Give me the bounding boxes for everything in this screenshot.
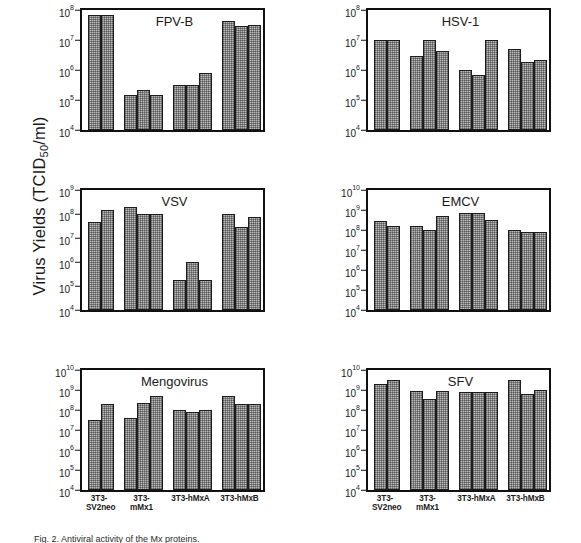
- bar: [222, 396, 235, 490]
- x-axis-label-3t3-hmxa: 3T3-hMxA: [457, 494, 496, 510]
- y-axis-ticks: 1041051061071081091010: [330, 188, 366, 312]
- bar-gap: [400, 190, 410, 310]
- panel-hsv-1: 104105106107108 HSV-1: [330, 8, 552, 153]
- bar: [374, 384, 387, 490]
- bar: [521, 62, 534, 130]
- bar: [436, 391, 449, 490]
- bar: [235, 26, 248, 130]
- bar-group: [374, 10, 400, 130]
- y-tick-label: 109: [330, 205, 366, 216]
- y-tick-label: 104: [44, 305, 80, 316]
- plot-area: EMCV: [366, 188, 551, 312]
- bar-gap: [449, 10, 459, 130]
- bar-gap: [400, 10, 410, 130]
- bar: [459, 392, 472, 490]
- bar-gap: [212, 190, 222, 310]
- y-tick-label: 106: [44, 257, 80, 268]
- y-tick-label: 108: [44, 209, 80, 220]
- bar: [88, 420, 101, 490]
- bar: [137, 90, 150, 130]
- y-tick-label: 104: [330, 125, 366, 136]
- bar: [423, 40, 436, 130]
- y-tick-label: 107: [44, 425, 80, 436]
- bar-gap: [163, 370, 173, 490]
- y-tick-label: 105: [44, 281, 80, 292]
- bar-group: [173, 10, 212, 130]
- x-label-spacer: [112, 494, 122, 510]
- bar: [235, 404, 248, 490]
- bar: [410, 226, 423, 310]
- y-tick-label: 1010: [44, 365, 80, 376]
- bar: [508, 230, 521, 310]
- bar-series: [368, 190, 549, 310]
- bar: [248, 217, 261, 310]
- y-tick-label: 106: [44, 65, 80, 76]
- y-tick-label: 104: [330, 305, 366, 316]
- x-axis-labels: 3T3-SV2neo3T3-mMx13T3-hMxA3T3-hMxB: [366, 494, 551, 510]
- bar: [248, 404, 261, 490]
- bar-series: [82, 10, 263, 130]
- bar: [534, 390, 547, 490]
- bar: [88, 15, 101, 130]
- bar-gap: [114, 10, 124, 130]
- y-tick-label: 108: [44, 5, 80, 16]
- bar: [472, 213, 485, 311]
- bar-group: [88, 10, 114, 130]
- plot-area: FPV-B: [80, 8, 265, 132]
- bar-series: [368, 370, 549, 490]
- bar-group: [508, 10, 547, 130]
- y-tick-label: 108: [330, 405, 366, 416]
- bar-gap: [163, 190, 173, 310]
- y-tick-label: 108: [330, 225, 366, 236]
- bar-group: [222, 10, 261, 130]
- plot-area: HSV-1: [366, 8, 551, 132]
- bar: [472, 392, 485, 490]
- y-tick-label: 1010: [330, 365, 366, 376]
- y-tick-label: 107: [330, 245, 366, 256]
- bar-gap: [498, 10, 508, 130]
- bar-gap: [114, 190, 124, 310]
- bar: [150, 396, 163, 490]
- x-axis-label-3t3-hmxb: 3T3-hMxB: [220, 494, 259, 510]
- bar: [508, 380, 521, 490]
- bar: [521, 394, 534, 490]
- bar-group: [410, 370, 449, 490]
- bar: [137, 214, 150, 310]
- plot-area: SFV: [366, 368, 551, 492]
- bar: [410, 391, 423, 490]
- bar: [222, 21, 235, 130]
- bar: [222, 214, 235, 310]
- y-tick-label: 109: [330, 385, 366, 396]
- y-axis-ticks: 104105106107108: [44, 8, 80, 132]
- bar-series: [368, 10, 549, 130]
- y-axis-ticks: 104105106107108: [330, 8, 366, 132]
- bar-group: [173, 190, 212, 310]
- bar: [150, 95, 163, 130]
- y-tick-label: 106: [330, 445, 366, 456]
- bar: [101, 210, 114, 310]
- bar: [485, 392, 498, 490]
- panel-emcv: 1041051061071081091010 EMCV: [330, 188, 552, 333]
- y-tick-label: 105: [44, 95, 80, 106]
- y-tick-label: 105: [330, 285, 366, 296]
- bar-group: [459, 190, 498, 310]
- bar-group: [374, 370, 400, 490]
- y-tick-label: 104: [330, 485, 366, 496]
- panel-vsv: 104105106107108109 VSV: [44, 188, 266, 333]
- panel-grid: 104105106107108 FPV-B 104105106107108 HS…: [0, 0, 581, 525]
- bar-group: [410, 10, 449, 130]
- y-tick-label: 104: [44, 125, 80, 136]
- bar-gap: [498, 370, 508, 490]
- x-axis-label-3t3-sv2neo: 3T3-SV2neo: [86, 494, 112, 510]
- y-tick-label: 105: [330, 95, 366, 106]
- bar: [88, 222, 101, 310]
- x-label-spacer: [398, 494, 408, 510]
- y-tick-label: 105: [44, 465, 80, 476]
- bar: [436, 51, 449, 130]
- bar: [485, 40, 498, 130]
- bar: [101, 15, 114, 130]
- bar: [472, 75, 485, 130]
- bar: [199, 410, 212, 490]
- y-axis-ticks: 1041051061071081091010: [330, 368, 366, 492]
- bar: [459, 70, 472, 130]
